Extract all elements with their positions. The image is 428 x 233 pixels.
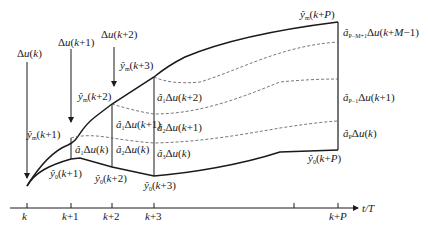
tick-label-k3: k+3 [145, 210, 162, 222]
label-ym-k1: ŷm(k+1) [26, 128, 61, 141]
mpc-prediction-diagram: k k+1 k+2 k+3 k+P t/T Δu(k) Δu(k+1) Δu(k… [0, 0, 428, 233]
axis-label: t/T [362, 202, 375, 214]
input-label-du-k2: Δu(k+2) [101, 28, 138, 41]
label-y0-k2: ŷ0(k+2) [94, 172, 127, 185]
time-axis [10, 203, 358, 208]
label-a1-du-k1: â1Δu(k+1) [116, 118, 161, 131]
tick-label-kP: k+P [329, 210, 347, 222]
label-aP-du-k: âPΔu(k) [343, 127, 377, 140]
tick-label-k1: k+1 [62, 210, 79, 222]
label-ym-k3: ŷm(k+3) [119, 59, 154, 72]
tick-label-k2: k+2 [103, 210, 120, 222]
label-a2-du-k1: â2Δu(k+1) [157, 121, 202, 134]
label-ym-k2: ŷm(k+2) [77, 90, 112, 103]
input-label-du-k: Δu(k) [17, 47, 42, 60]
label-y0-k3: ŷ0(k+3) [143, 179, 176, 192]
input-label-du-k1: Δu(k+1) [58, 36, 95, 49]
tick-label-k: k [22, 210, 28, 222]
label-a1-du-k: â1Δu(k) [75, 143, 109, 156]
label-aPM1-du-kM1: âP−M+1Δu(k+M−1) [343, 26, 419, 39]
label-aP1-du-k1: âP−1Δu(k+1) [343, 91, 395, 104]
label-a2-du-k: â2Δu(k) [116, 143, 150, 156]
label-ym-kP: ŷm(k+P) [299, 8, 335, 21]
label-y0-kP: ŷ0(k+P) [307, 152, 341, 165]
label-y0-k1: ŷ0(k+1) [49, 167, 82, 180]
label-a3-du-k: â3Δu(k) [157, 147, 191, 160]
label-a1-du-k2: â1Δu(k+2) [157, 91, 202, 104]
